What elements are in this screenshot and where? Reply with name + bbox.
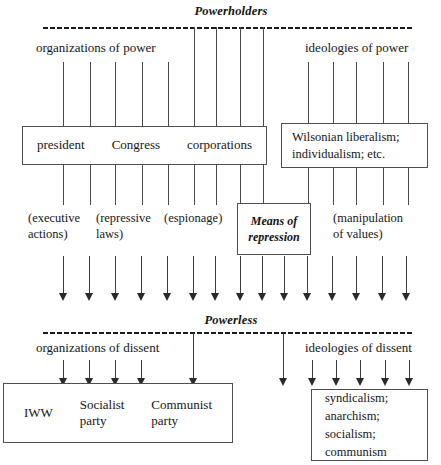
mechanism-label-manipulation-of-values: (manipulation of values) — [333, 210, 403, 243]
power-line — [308, 62, 309, 126]
organizations-of-dissent-box: IWW Socialist party Communist party — [3, 383, 233, 443]
mechanism-line-text: (repressive — [96, 210, 151, 226]
dissent-item-line: IWW — [24, 405, 53, 420]
repression-arrow — [378, 256, 387, 301]
mechanism-label-executive-actions: (executive actions) — [28, 210, 80, 243]
powerless-divider — [42, 331, 414, 335]
organizations-of-power-label: organizations of power — [36, 40, 156, 56]
mechanism-line-text: (espionage) — [164, 210, 222, 226]
dissent-item-line: party — [151, 413, 212, 429]
ideologies-of-dissent-label: ideologies of dissent — [305, 340, 412, 356]
mechanism-line — [263, 165, 264, 203]
dissent-arrow — [356, 360, 365, 386]
mechanism-line — [240, 165, 241, 203]
mechanism-line-text: laws) — [96, 226, 151, 242]
mechanism-line-text: of values) — [333, 226, 403, 242]
power-line — [168, 62, 169, 126]
powerholders-divider — [42, 26, 414, 30]
powerless-title: Powerless — [176, 313, 286, 328]
organizations-of-power-box: president Congress corporations — [22, 126, 267, 165]
dissent-ideology-line: socialism; — [325, 425, 427, 443]
mechanism-line — [356, 168, 357, 205]
dissent-arrow — [189, 333, 198, 386]
repression-arrow — [402, 256, 411, 301]
mechanism-line-text: actions) — [28, 226, 80, 242]
power-line — [63, 62, 64, 126]
ideologies-of-power-box: Wilsonian liberalism; individualism; etc… — [281, 123, 428, 168]
power-line — [240, 27, 241, 126]
dissent-arrow — [405, 360, 414, 386]
dissent-ideology-line: communism — [325, 443, 427, 461]
mechanism-line — [168, 165, 169, 205]
dissent-arrow — [332, 360, 341, 386]
dissent-item-line: Socialist — [80, 397, 125, 413]
power-line — [216, 27, 217, 126]
dissent-arrow — [308, 360, 317, 386]
organizations-of-dissent-label: organizations of dissent — [36, 340, 159, 356]
dissent-ideology-line: syndicalism; — [325, 389, 427, 407]
repression-arrow — [189, 256, 198, 301]
means-line: repression — [238, 229, 310, 245]
power-line — [142, 62, 143, 126]
power-line — [356, 62, 357, 126]
mechanism-line — [194, 165, 195, 205]
mechanism-line-text: (manipulation — [333, 210, 403, 226]
mechanism-line — [63, 165, 64, 205]
powerholders-title: Powerholders — [166, 4, 296, 19]
repression-arrow — [328, 256, 337, 301]
repression-arrow — [280, 256, 289, 301]
dissent-item-iww: IWW — [24, 405, 53, 421]
dissent-item-line: party — [80, 413, 125, 429]
mechanism-line — [308, 168, 309, 205]
power-line — [90, 62, 91, 126]
repression-arrow — [85, 256, 94, 301]
dissent-item-line: Communist — [151, 397, 212, 413]
repression-arrow — [211, 256, 220, 301]
mechanism-line — [408, 168, 409, 205]
mechanism-label-repressive-laws: (repressive laws) — [96, 210, 151, 243]
mechanism-line — [333, 168, 334, 205]
mechanism-line — [216, 165, 217, 205]
mechanism-line — [90, 165, 91, 205]
dissent-ideology-line: anarchism; — [325, 407, 427, 425]
mechanism-line — [142, 165, 143, 205]
dissent-arrow — [381, 360, 390, 386]
power-line — [408, 62, 409, 126]
means-line: Means of — [238, 213, 310, 229]
repression-arrow — [352, 256, 361, 301]
repression-arrow — [59, 256, 68, 301]
power-line — [194, 27, 195, 126]
repression-arrow — [111, 256, 120, 301]
repression-arrow — [258, 256, 267, 301]
repression-arrow — [303, 256, 312, 301]
mechanism-line-text: (executive — [28, 210, 80, 226]
repression-arrow — [236, 256, 245, 301]
repression-arrow — [163, 256, 172, 301]
power-item-president: president — [37, 137, 85, 153]
dissent-arrow — [279, 333, 288, 386]
mechanism-label-espionage: (espionage) — [164, 210, 222, 226]
dissent-item-socialist-party: Socialist party — [80, 397, 125, 430]
ideologies-of-dissent-box: syndicalism; anarchism; socialism; commu… — [311, 389, 428, 461]
ideology-line: Wilsonian liberalism; — [292, 129, 427, 145]
mechanism-line — [115, 165, 116, 205]
power-structure-diagram: Powerholders organizations of power ideo… — [0, 0, 441, 465]
repression-arrow — [137, 256, 146, 301]
power-item-corporations: corporations — [187, 137, 252, 153]
power-line — [383, 62, 384, 126]
ideology-line: individualism; etc. — [292, 146, 427, 162]
power-line — [115, 62, 116, 126]
means-of-repression-box: Means of repression — [237, 203, 311, 255]
power-item-congress: Congress — [112, 137, 160, 153]
mechanism-line — [383, 168, 384, 205]
power-line — [333, 62, 334, 126]
ideologies-of-power-label: ideologies of power — [305, 40, 408, 56]
power-line — [263, 27, 264, 126]
dissent-item-communist-party: Communist party — [151, 397, 212, 430]
